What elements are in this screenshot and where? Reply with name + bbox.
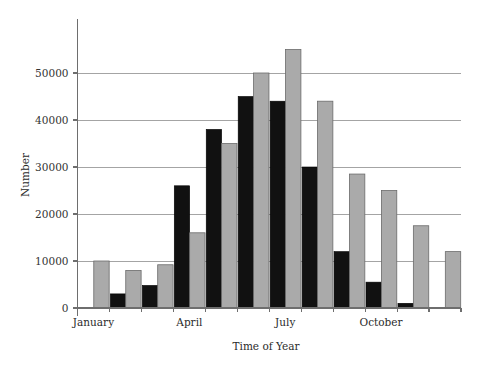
bar-light-january — [94, 261, 109, 308]
y-tick-label: 10000 — [35, 255, 68, 267]
y-axis-title: Number — [19, 152, 31, 197]
bar-dark-february — [110, 294, 125, 308]
bar-group — [94, 50, 461, 309]
x-tick-label-group: JanuaryAprilJulyOctober — [72, 316, 404, 328]
x-tick-label-january: January — [72, 316, 114, 328]
bar-light-june — [254, 73, 269, 308]
bar-light-november — [413, 226, 428, 308]
bar-chart-svg: 01000020000300004000050000 JanuaryAprilJ… — [0, 0, 484, 368]
bar-dark-march — [142, 285, 157, 308]
x-axis-title: Time of Year — [233, 340, 301, 352]
y-tick-label: 20000 — [35, 208, 68, 220]
bar-light-december — [445, 252, 460, 308]
bar-dark-may — [206, 129, 221, 308]
bar-dark-july — [270, 101, 285, 308]
y-tick-label: 0 — [62, 302, 69, 314]
bar-light-march — [158, 265, 173, 308]
bar-dark-june — [238, 97, 253, 309]
y-tick-label: 40000 — [35, 114, 68, 126]
bar-dark-september — [334, 252, 349, 308]
bar-light-september — [349, 174, 364, 308]
x-tick-label-april: April — [175, 316, 203, 328]
y-tick-label-group: 01000020000300004000050000 — [35, 67, 68, 314]
x-tick-label-july: July — [274, 316, 295, 328]
bar-dark-august — [302, 167, 317, 308]
y-tick-label: 50000 — [35, 67, 68, 79]
bar-light-february — [126, 270, 141, 308]
y-tick-label: 30000 — [35, 161, 68, 173]
chart-figure: 01000020000300004000050000 JanuaryAprilJ… — [0, 0, 484, 368]
bar-light-may — [222, 144, 237, 309]
bar-dark-november — [398, 303, 413, 308]
bar-dark-october — [366, 282, 381, 308]
bar-light-july — [286, 50, 301, 309]
bar-light-august — [317, 101, 332, 308]
x-tick-label-october: October — [360, 316, 404, 328]
bar-dark-april — [174, 186, 189, 308]
bar-light-october — [381, 191, 396, 309]
bar-light-april — [190, 233, 205, 308]
